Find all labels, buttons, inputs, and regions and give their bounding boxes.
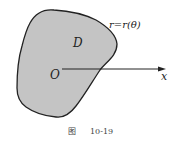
- origin-label: O: [50, 68, 60, 82]
- caption-number: 10-19: [90, 127, 113, 136]
- caption-prefix: 图: [68, 127, 76, 136]
- x-axis-label: x: [161, 70, 168, 83]
- region-d: [17, 10, 117, 117]
- figure-canvas: D O x r=r(θ) 图 10-19: [0, 0, 176, 141]
- curve-label: r=r(θ): [109, 19, 141, 30]
- region-label: D: [72, 36, 83, 50]
